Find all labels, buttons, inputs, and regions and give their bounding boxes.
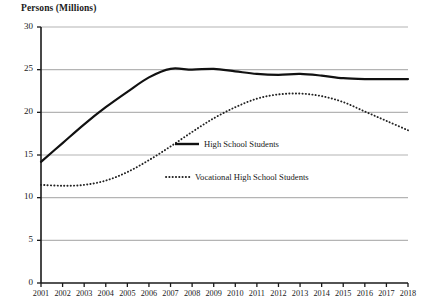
x-tick-label: 2013 xyxy=(292,289,308,298)
x-tick-label: 2003 xyxy=(76,289,92,298)
y-tick-label: 5 xyxy=(7,234,33,244)
x-tick-label: 2005 xyxy=(119,289,135,298)
x-tick-label: 2010 xyxy=(227,289,243,298)
x-tick-label: 2006 xyxy=(141,289,157,298)
x-tick-label: 2004 xyxy=(98,289,114,298)
legend-label-vocational-high-school-students: Vocational High School Students xyxy=(195,172,309,182)
y-tick-label: 30 xyxy=(7,21,33,31)
y-tick-label: 15 xyxy=(7,149,33,159)
gridlines xyxy=(41,27,408,240)
x-tick-label: 2015 xyxy=(335,289,351,298)
x-tick-label: 2011 xyxy=(249,289,265,298)
x-tick-label: 2012 xyxy=(270,289,286,298)
chart-plot-area xyxy=(0,0,435,303)
x-tick-label: 2008 xyxy=(184,289,200,298)
x-tick-label: 2002 xyxy=(54,289,70,298)
x-tick-label: 2009 xyxy=(206,289,222,298)
x-tick-label: 2007 xyxy=(162,289,178,298)
chart-container: Persons (Millions) 051015202530 20012002… xyxy=(0,0,435,303)
x-tick-label: 2018 xyxy=(400,289,416,298)
y-tick-label: 25 xyxy=(7,63,33,73)
y-tick-label: 10 xyxy=(7,191,33,201)
x-tick-label: 2016 xyxy=(357,289,373,298)
x-tick-label: 2017 xyxy=(378,289,394,298)
x-tick-label: 2001 xyxy=(33,289,49,298)
y-tick-label: 0 xyxy=(7,277,33,287)
x-tick-label: 2014 xyxy=(313,289,329,298)
legend-label-high-school-students: High School Students xyxy=(204,139,279,149)
y-tick-label: 20 xyxy=(7,106,33,116)
